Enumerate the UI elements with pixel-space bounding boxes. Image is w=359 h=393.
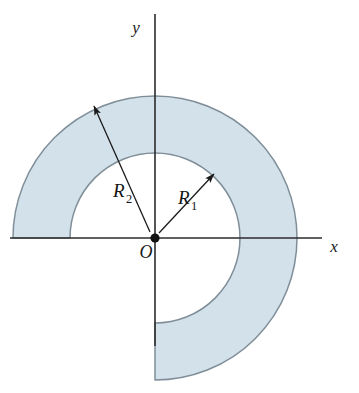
outer-radius-label-subscript: 2 [126, 192, 132, 206]
inner-radius-label: R 1 [177, 187, 197, 213]
outer-radius-label-base: R [112, 180, 125, 201]
inner-radius-label-base: R [177, 187, 190, 208]
x-axis-label: x [329, 237, 338, 256]
engineering-figure: y x O R 2 R 1 [0, 0, 359, 393]
origin-label: O [140, 242, 153, 262]
figure-container: y x O R 2 R 1 [0, 0, 359, 393]
inner-radius-label-subscript: 1 [191, 199, 197, 213]
y-axis-label: y [130, 18, 140, 37]
